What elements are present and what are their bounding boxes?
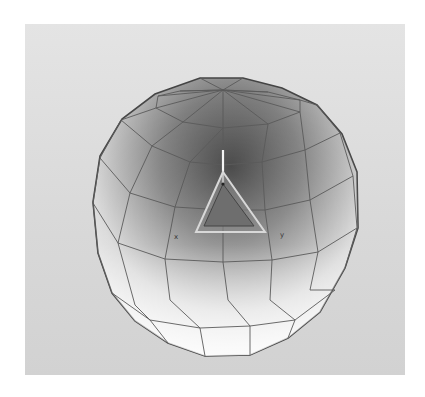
sphere-render	[0, 0, 425, 397]
y-axis-label: y	[280, 231, 284, 239]
x-axis-label: x	[174, 233, 178, 241]
